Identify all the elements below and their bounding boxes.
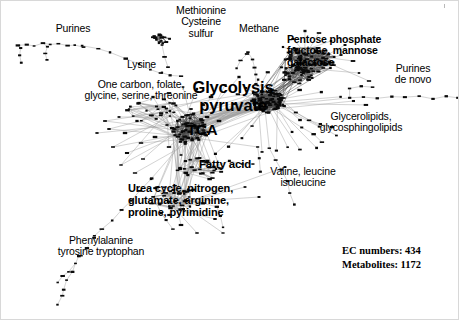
label-pentose-line2: fructose, mannose bbox=[287, 45, 381, 56]
label-methionine-cysteine-sulfur: Methionine Cysteine sulfur bbox=[176, 5, 226, 39]
label-methionine-line2: Cysteine bbox=[176, 16, 226, 27]
label-urea-cycle: Urea cycle, nitrogen, glutamate, arginin… bbox=[128, 183, 233, 219]
label-one-carbon: One carbon, folate, glycine, serine, thr… bbox=[85, 79, 198, 102]
label-tca: TCA bbox=[187, 122, 217, 138]
label-one-carbon-line2: glycine, serine, threonine bbox=[85, 90, 198, 101]
network-figure: Purines Methionine Cysteine sulfur Metha… bbox=[0, 0, 459, 320]
corner-tick-mark bbox=[444, 4, 445, 8]
label-glycerolipids: Glycerolipids, glycosphingolipids bbox=[320, 111, 403, 134]
label-purines-de-novo: Purines de novo bbox=[395, 63, 431, 86]
label-valine-line2: isoleucine bbox=[270, 177, 335, 188]
label-lysine: Lysine bbox=[127, 59, 156, 70]
label-purines-denovo-line2: de novo bbox=[395, 74, 431, 85]
label-fatty-acid-text: Fatty acid bbox=[199, 158, 251, 170]
label-urea-line3: proline, pyrimidine bbox=[128, 207, 233, 219]
label-tca-text: TCA bbox=[187, 121, 217, 138]
label-phenylalanine: Phenylalanine tyrosine tryptophan bbox=[58, 235, 144, 258]
label-pentose-phosphate: Pentose phosphate fructose, mannose gala… bbox=[287, 34, 381, 68]
label-purines: Purines bbox=[56, 23, 91, 34]
stat-metabolites: Metabolites: 1172 bbox=[342, 258, 421, 272]
label-methionine-line3: sulfur bbox=[176, 28, 226, 39]
label-glycerolipids-line2: glycosphingolipids bbox=[320, 122, 403, 133]
label-methane: Methane bbox=[239, 23, 279, 34]
label-fatty-acid: Fatty acid bbox=[199, 158, 251, 170]
stat-ec-numbers: EC numbers: 434 bbox=[342, 244, 421, 258]
label-lysine-text: Lysine bbox=[127, 58, 156, 70]
label-glycolysis-line2: pyruvate bbox=[192, 97, 273, 115]
label-purines-text: Purines bbox=[56, 22, 91, 34]
label-phenylalanine-line2: tyrosine tryptophan bbox=[58, 246, 144, 257]
label-urea-line2: glutamate, arginine, bbox=[128, 195, 233, 207]
label-methane-text: Methane bbox=[239, 22, 279, 34]
stats-block: EC numbers: 434 Metabolites: 1172 bbox=[342, 244, 421, 272]
label-glycolysis-pyruvate: Glycolysis pyruvate bbox=[192, 79, 273, 115]
label-valine-leucine-isoleucine: Valine, leucine isoleucine bbox=[270, 166, 335, 189]
label-pentose-line3: galactose bbox=[287, 57, 381, 68]
label-glycolysis-line1: Glycolysis bbox=[192, 79, 273, 97]
